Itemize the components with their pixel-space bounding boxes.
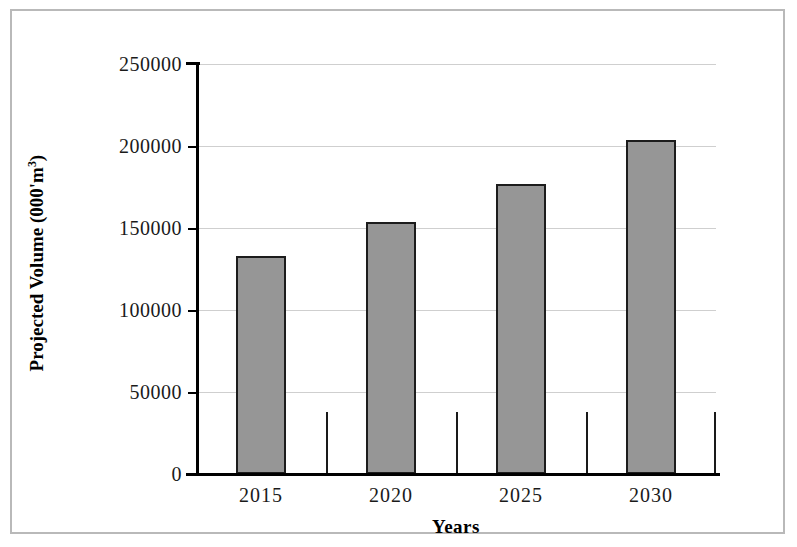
plot-area xyxy=(196,64,716,474)
x-axis-line xyxy=(196,473,720,476)
x-tick-label-2015: 2015 xyxy=(201,484,321,507)
y-axis-line xyxy=(196,62,199,476)
category-separator xyxy=(714,412,716,474)
bar-2025[interactable] xyxy=(496,184,546,474)
y-axis-bottom-cap xyxy=(186,473,200,476)
y-axis-title-suffix: ) xyxy=(26,155,47,161)
y-tick-label: 150000 xyxy=(119,217,182,240)
y-tick-mark-100000 xyxy=(188,310,199,312)
y-axis-title-superscript: 3 xyxy=(26,161,39,167)
x-tick-label-2025: 2025 xyxy=(461,484,581,507)
chart-figure: 250000 200000 150000 100000 50000 0 Proj… xyxy=(0,0,797,547)
x-tick-label-2020: 2020 xyxy=(331,484,451,507)
x-tick-label-2030: 2030 xyxy=(591,484,711,507)
bar-2020[interactable] xyxy=(366,222,416,474)
y-tick-mark-50000 xyxy=(188,392,199,394)
y-tick-label: 0 xyxy=(172,463,183,486)
y-tick-mark-200000 xyxy=(188,146,199,148)
category-separator xyxy=(586,412,588,474)
y-axis-top-cap xyxy=(186,62,200,65)
y-tick-mark-150000 xyxy=(188,228,199,230)
bar-2015[interactable] xyxy=(236,256,286,474)
y-axis-title: Projected Volume (000'm3) xyxy=(26,133,48,393)
y-axis-title-text: Projected Volume (000'm xyxy=(26,167,47,371)
category-separator xyxy=(456,412,458,474)
bar-2030[interactable] xyxy=(626,140,676,474)
x-axis-title: Years xyxy=(196,516,716,538)
y-tick-label: 200000 xyxy=(119,135,182,158)
y-tick-label: 250000 xyxy=(119,53,182,76)
y-tick-label: 50000 xyxy=(130,381,183,404)
y-tick-label: 100000 xyxy=(119,299,182,322)
category-separator xyxy=(326,412,328,474)
gridline-250000 xyxy=(196,64,716,65)
